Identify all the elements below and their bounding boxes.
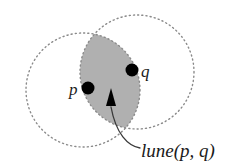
diagram-canvas: p q lune(p, q) [0,0,240,168]
lune-diagram: p q lune(p, q) [0,0,240,168]
point-q-dot [126,64,139,77]
point-p-label: p [68,80,78,99]
point-q-label: q [141,62,150,81]
lune-caption: lune(p, q) [141,140,215,162]
point-p-dot [82,82,95,95]
